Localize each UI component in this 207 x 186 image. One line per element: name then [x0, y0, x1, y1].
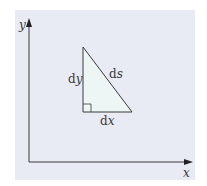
y-axis-label: y — [18, 18, 26, 32]
dy-label: dy — [68, 72, 83, 86]
diagram-canvas: y x dy ds dx — [0, 0, 207, 186]
dx-label: dx — [100, 114, 115, 128]
differential-triangle — [83, 47, 132, 112]
x-axis-label: x — [183, 166, 190, 180]
y-axis-arrow-icon — [26, 18, 32, 27]
x-axis-arrow-icon — [184, 159, 193, 165]
ds-label: ds — [109, 67, 123, 81]
